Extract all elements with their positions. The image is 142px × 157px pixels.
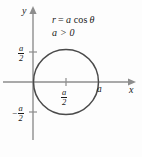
- condition-label: a > 0: [52, 28, 75, 38]
- center-label: a 2: [61, 88, 67, 107]
- fraction-numerator: a: [18, 44, 24, 53]
- equation-a: a: [66, 14, 71, 25]
- polar-circle-figure: y x r=acosθ a > 0 a 2 − a 2 a 2 a: [0, 0, 142, 157]
- equation-theta: θ: [90, 14, 95, 25]
- y-axis-arrowhead: [29, 6, 36, 14]
- fraction-denominator: 2: [61, 97, 67, 107]
- minus-sign: −: [12, 109, 17, 118]
- fraction-a-over-2-negative: a 2: [18, 104, 24, 123]
- fraction-denominator: 2: [18, 113, 24, 123]
- fraction-numerator: a: [18, 104, 24, 113]
- y-axis-label: y: [22, 6, 26, 16]
- fraction-a-over-2: a 2: [18, 44, 24, 63]
- fraction-numerator: a: [61, 88, 67, 97]
- x-axis-label: x: [129, 85, 133, 95]
- y-tick-negative-label: − a 2: [12, 104, 24, 123]
- equation-r: r: [52, 14, 56, 25]
- fraction-denominator: 2: [18, 53, 24, 63]
- y-tick-positive-label: a 2: [18, 44, 24, 63]
- x-intercept-label: a: [97, 85, 102, 95]
- equation-label: r=acosθ: [52, 15, 95, 25]
- equation-equals: =: [58, 14, 64, 25]
- fraction-a-over-2-center: a 2: [61, 88, 67, 107]
- equation-cos: cos: [74, 14, 88, 25]
